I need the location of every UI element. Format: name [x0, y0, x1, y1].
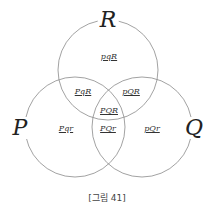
region-pqR: pqR [101, 53, 117, 61]
set-label-r: R [98, 9, 119, 31]
circle-r [58, 20, 158, 120]
set-label-p: P [11, 117, 30, 139]
region-PqR: PqR [75, 88, 92, 96]
region-pQr: pQr [144, 125, 160, 133]
region-PQr: PQr [100, 125, 116, 133]
region-pQR: pQR [122, 88, 140, 96]
figure-caption: [그림 41] [88, 191, 125, 204]
region-PQR: PQR [100, 107, 118, 115]
region-Pqr: Pqr [59, 125, 73, 133]
set-label-q: Q [183, 117, 205, 139]
